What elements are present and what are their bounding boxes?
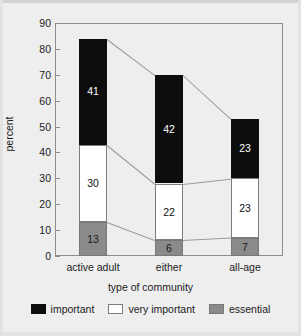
legend-swatch-icon bbox=[31, 304, 46, 314]
x-tick-label: all-age bbox=[195, 261, 295, 273]
y-tick-mark bbox=[55, 204, 60, 205]
y-tick-label: 50 bbox=[29, 122, 51, 132]
legend-swatch-icon bbox=[108, 304, 123, 314]
y-tick-label: 20 bbox=[29, 199, 51, 209]
bar-value-label: 23 bbox=[239, 203, 251, 214]
bar-segment: 23 bbox=[231, 119, 259, 179]
y-tick-label: 90 bbox=[29, 18, 51, 28]
y-tick-label: 0 bbox=[29, 251, 51, 261]
y-tick-mark bbox=[55, 256, 60, 257]
y-tick-label: 60 bbox=[29, 96, 51, 106]
segment-connector-line bbox=[183, 75, 232, 120]
y-tick-mark bbox=[55, 127, 60, 128]
legend-item: very important bbox=[108, 303, 195, 315]
bar-segment: 41 bbox=[79, 39, 107, 145]
bar-segment: 30 bbox=[79, 145, 107, 223]
bar-value-label: 41 bbox=[87, 86, 99, 97]
y-tick-mark bbox=[55, 178, 60, 179]
y-tick-mark bbox=[55, 75, 60, 76]
x-axis-title: type of community bbox=[0, 281, 301, 293]
bar-segment: 13 bbox=[79, 222, 107, 256]
bar-value-label: 42 bbox=[163, 124, 175, 135]
bar-value-label: 23 bbox=[239, 143, 251, 154]
segment-connector-line bbox=[183, 178, 231, 184]
bar-value-label: 30 bbox=[87, 178, 99, 189]
y-tick-mark bbox=[55, 49, 60, 50]
segment-connector-line bbox=[183, 238, 231, 242]
y-tick-mark bbox=[55, 152, 60, 153]
chart-figure: percent 0102030405060708090 133041622427… bbox=[0, 0, 301, 336]
y-tick-label: 40 bbox=[29, 147, 51, 157]
y-tick-label: 30 bbox=[29, 173, 51, 183]
legend-item: important bbox=[31, 303, 95, 315]
y-tick-mark bbox=[55, 230, 60, 231]
y-tick-label: 80 bbox=[29, 44, 51, 54]
segment-connector-line bbox=[107, 222, 155, 241]
bar-segment: 7 bbox=[231, 238, 259, 256]
legend-label: important bbox=[51, 303, 95, 315]
legend-label: essential bbox=[229, 303, 270, 315]
segment-connector-line bbox=[107, 39, 156, 76]
segment-connector-line bbox=[107, 145, 156, 185]
bar-value-label: 22 bbox=[163, 207, 175, 218]
chart-legend: importantvery importantessential bbox=[0, 303, 301, 315]
bar-segment: 23 bbox=[231, 178, 259, 238]
plot-area: 1330416224272323 bbox=[55, 23, 283, 256]
bar-value-label: 13 bbox=[87, 234, 99, 245]
y-tick-label: 70 bbox=[29, 70, 51, 80]
bar-value-label: 6 bbox=[166, 243, 172, 254]
bar-segment: 22 bbox=[155, 184, 183, 241]
legend-label: very important bbox=[128, 303, 195, 315]
y-tick-mark bbox=[55, 101, 60, 102]
bar-segment: 6 bbox=[155, 240, 183, 256]
bar-segment: 42 bbox=[155, 75, 183, 184]
legend-swatch-icon bbox=[209, 304, 224, 314]
y-axis-title: percent bbox=[3, 116, 15, 151]
legend-item: essential bbox=[209, 303, 270, 315]
y-tick-label: 10 bbox=[29, 225, 51, 235]
bar-value-label: 7 bbox=[242, 242, 248, 253]
